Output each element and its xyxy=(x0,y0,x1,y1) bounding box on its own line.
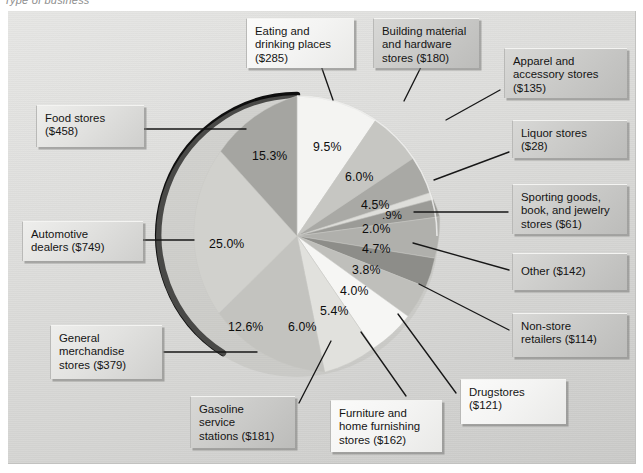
pct-furniture: 5.4% xyxy=(320,304,348,318)
callout-building-material-and-hardware-stores[interactable]: Building material and hardware stores ($… xyxy=(373,18,479,68)
callout-eating-and-drinking-places[interactable]: Eating and drinking places ($285) xyxy=(246,18,354,68)
leader-liquor xyxy=(434,152,509,180)
callout-line: Gasoline xyxy=(199,403,288,416)
pct-sporting: 2.0% xyxy=(362,222,390,236)
callout-line: Furniture and xyxy=(339,407,435,420)
callout-line: Sporting goods, xyxy=(521,191,620,204)
callout-line: Building material xyxy=(382,25,472,38)
pct-other: 4.7% xyxy=(362,242,390,256)
callout-drugstores[interactable]: Drugstores ($121) xyxy=(460,379,566,424)
callout-line: dealers ($749) xyxy=(31,241,136,254)
callout-line: ($28) xyxy=(521,140,620,153)
callout-line: ($135) xyxy=(513,82,620,95)
callout-automotive-dealers[interactable]: Automotive dealers ($749) xyxy=(22,221,143,261)
callout-liquor-stores[interactable]: Liquor stores ($28) xyxy=(512,120,627,158)
pct-general: 12.6% xyxy=(228,320,263,334)
callout-line: home furnishing xyxy=(339,420,435,433)
callout-line: Non-store xyxy=(521,320,620,333)
leader-drugstores xyxy=(398,314,456,393)
callout-line: merchandise xyxy=(59,345,155,358)
pct-gasoline: 6.0% xyxy=(288,320,316,334)
callout-line: Eating and xyxy=(255,25,347,38)
callout-line: stations ($181) xyxy=(199,430,288,443)
callout-line: retailers ($114) xyxy=(521,333,620,346)
callout-line: stores ($162) xyxy=(339,434,435,447)
callout-line: accessory stores xyxy=(513,68,620,81)
callout-line: Automotive xyxy=(31,228,136,241)
callout-general-merchandise-stores[interactable]: General merchandise stores ($379) xyxy=(50,325,162,379)
callout-line: Food stores xyxy=(45,112,137,125)
callout-line: stores ($61) xyxy=(521,218,620,231)
callout-line: ($285) xyxy=(255,52,347,65)
pct-automotive: 25.0% xyxy=(209,237,244,251)
pct-liquor: .9% xyxy=(382,209,402,221)
callout-line: Apparel and xyxy=(513,55,620,68)
callout-apparel-and-accessory-stores[interactable]: Apparel and accessory stores ($135) xyxy=(504,48,627,98)
callout-gasoline-service-stations[interactable]: Gasoline service stations ($181) xyxy=(190,396,295,448)
callout-line: stores ($379) xyxy=(59,359,155,372)
callout-line: drinking places xyxy=(255,38,347,51)
callout-food-stores[interactable]: Food stores ($458) xyxy=(36,105,144,147)
callout-line: Drugstores xyxy=(469,386,559,399)
callout-line: General xyxy=(59,332,155,345)
pct-building: 6.0% xyxy=(345,170,373,184)
callout-line: stores ($180) xyxy=(382,52,472,65)
callout-line: Other ($142) xyxy=(521,260,620,278)
pct-drugstores: 4.0% xyxy=(340,284,368,298)
chart-canvas: Type of business xyxy=(0,0,643,473)
callout-other[interactable]: Other ($142) xyxy=(512,253,627,290)
callout-sporting-goods-book-and-jewelry-stores[interactable]: Sporting goods, book, and jewelry stores… xyxy=(512,184,627,234)
callout-line: service xyxy=(199,416,288,429)
callout-line: and hardware xyxy=(382,38,472,51)
callout-furniture-and-home-furnishing-stores[interactable]: Furniture and home furnishing stores ($1… xyxy=(330,400,442,452)
pct-eating: 9.5% xyxy=(313,140,341,154)
pct-nonstore: 3.8% xyxy=(352,263,380,277)
callout-line: ($121) xyxy=(469,399,559,412)
leader-apparel xyxy=(446,90,500,120)
callout-line: book, and jewelry xyxy=(521,204,620,217)
leader-nonstore xyxy=(419,284,509,330)
pct-food: 15.3% xyxy=(252,149,287,163)
callout-line: ($458) xyxy=(45,125,137,138)
callout-line: Liquor stores xyxy=(521,127,620,140)
callout-non-store-retailers[interactable]: Non-store retailers ($114) xyxy=(512,313,627,357)
